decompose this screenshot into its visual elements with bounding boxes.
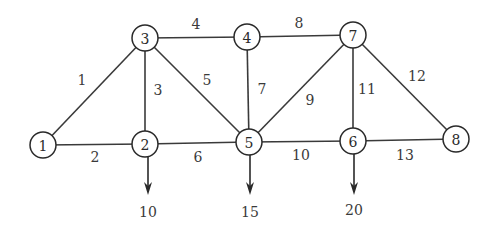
node-2: 2 (132, 131, 158, 157)
truss-diagram: 12345678910111213 101520 12345678 (0, 0, 493, 233)
member-label: 3 (154, 82, 163, 98)
node-8: 8 (443, 126, 469, 152)
member-label: 10 (292, 147, 310, 163)
load-value: 15 (241, 204, 259, 220)
member-label: 13 (396, 147, 414, 163)
node-4: 4 (234, 24, 260, 50)
node-label: 2 (141, 137, 150, 153)
member-label: 1 (78, 72, 87, 88)
member-label: 5 (203, 72, 212, 88)
node-7: 7 (340, 22, 366, 48)
node-label: 3 (141, 31, 150, 47)
member-4 (145, 37, 247, 38)
node-1: 1 (30, 132, 56, 158)
member-6 (145, 142, 249, 144)
node-label: 8 (452, 132, 461, 148)
node-5: 5 (236, 129, 262, 155)
member-8 (247, 35, 353, 37)
member-label: 11 (358, 81, 376, 97)
member-10 (249, 141, 353, 142)
member-1 (43, 38, 145, 145)
node-3: 3 (132, 25, 158, 51)
node-label: 7 (349, 28, 358, 44)
node-label: 4 (243, 30, 252, 46)
node-label: 1 (39, 138, 48, 154)
member-2 (43, 144, 145, 145)
load-value: 20 (345, 202, 363, 218)
member-label: 9 (306, 92, 315, 108)
node-label: 5 (245, 135, 254, 151)
member-label: 6 (194, 149, 203, 165)
node-label: 6 (349, 134, 358, 150)
member-label: 2 (91, 149, 100, 165)
member-13 (353, 139, 456, 141)
member-7 (247, 37, 249, 142)
load-arrows: 101520 (139, 154, 363, 220)
node-6: 6 (340, 128, 366, 154)
member-label: 12 (408, 68, 426, 84)
member-label: 8 (295, 15, 304, 31)
load-value: 10 (139, 204, 157, 220)
member-label: 4 (192, 16, 201, 32)
member-label: 7 (258, 81, 267, 97)
